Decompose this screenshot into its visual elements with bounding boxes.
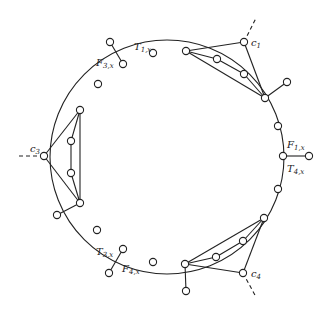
node-n_left_hub_top	[76, 106, 83, 113]
ring-cycle	[50, 40, 284, 274]
node-n_left_hub_bot	[76, 199, 83, 206]
node-n_F1x	[279, 152, 286, 159]
node-n_l1	[93, 226, 100, 233]
edge	[186, 51, 217, 59]
edge	[71, 173, 80, 203]
edge	[44, 110, 80, 156]
node-c1_in1	[213, 55, 220, 62]
edge	[185, 218, 264, 264]
edge	[185, 264, 243, 273]
node-n_F3x	[119, 60, 126, 67]
node-n_r1	[274, 122, 281, 129]
node-p_F3x	[106, 38, 113, 45]
label-c4: c4	[251, 268, 261, 281]
label-T4x: T4,x	[287, 163, 304, 176]
node-c3_in2	[67, 169, 74, 176]
node-c4	[239, 269, 246, 276]
node-c4_in1	[239, 237, 246, 244]
label-F3x: F3,x	[95, 57, 114, 70]
node-n_right_hub_top	[261, 94, 268, 101]
label-T3x: T3,x	[96, 246, 113, 259]
edge	[185, 257, 216, 264]
node-p_T3x	[105, 269, 112, 276]
node-c1_in2	[240, 70, 247, 77]
label-F1x: F1,x	[286, 139, 305, 152]
node-n_bot_hub	[181, 260, 188, 267]
node-n_b1	[149, 258, 156, 265]
node-p_left_hub_bot	[53, 211, 60, 218]
node-n_top_hub	[182, 47, 189, 54]
node-c3	[40, 152, 47, 159]
edge	[244, 74, 265, 98]
node-c4_in2	[212, 253, 219, 260]
label-c3: c3	[30, 143, 41, 156]
gadget-ring-diagram: T1,xF3,xc1F1,xT4,xc3T3,xF4,xc4	[0, 0, 327, 312]
label-F4x: F4,x	[121, 263, 140, 276]
node-p_F1x	[305, 152, 312, 159]
node-n_right_hub_bot	[260, 214, 267, 221]
node-n_l2	[94, 80, 101, 87]
edge	[44, 156, 80, 203]
edges	[44, 42, 309, 291]
node-c1	[240, 38, 247, 45]
edge	[244, 42, 265, 98]
edge	[243, 218, 264, 273]
diagram-canvas: T1,xF3,xc1F1,xT4,xc3T3,xF4,xc4	[0, 0, 327, 312]
edge	[186, 51, 265, 98]
node-p_right_hub_top	[283, 78, 290, 85]
label-c1: c1	[251, 37, 261, 50]
edge	[243, 218, 264, 241]
edge	[71, 110, 80, 141]
node-n_r2	[274, 185, 281, 192]
ring-circle	[50, 40, 284, 274]
node-c3_in1	[67, 137, 74, 144]
node-p_bot_hub	[182, 287, 189, 294]
node-n_T3x	[119, 245, 126, 252]
